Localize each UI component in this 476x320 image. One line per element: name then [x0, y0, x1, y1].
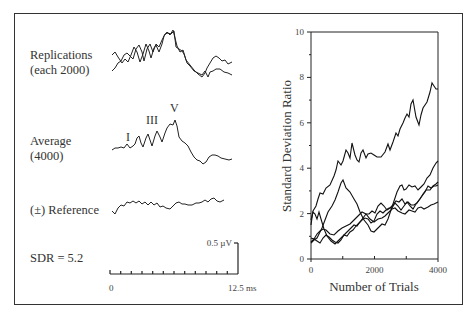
sdr-x-axis-title: Number of Trials [329, 279, 419, 294]
amplitude-scale-label: 0.5 µV [207, 238, 233, 248]
svg-text:10: 10 [295, 27, 305, 37]
svg-text:4000: 4000 [429, 265, 448, 275]
plots-canvas: I III V 0.5 µV 0 12.5 ms [0, 0, 476, 320]
svg-text:0: 0 [300, 254, 305, 264]
time-end-label: 12.5 ms [228, 283, 257, 293]
peak-label-i: I [126, 130, 130, 144]
average-trace [112, 120, 232, 164]
sdr-series-1 [311, 83, 438, 225]
svg-text:8: 8 [300, 72, 305, 82]
sdr-y-tick-labels: 0 2 4 6 8 10 [295, 27, 305, 264]
sdr-y-axis-title: Standard Deviation Ratio [279, 80, 294, 212]
sdr-series [311, 83, 438, 244]
svg-text:0: 0 [309, 265, 314, 275]
peak-label-v: V [170, 101, 179, 115]
peak-label-iii: III [146, 113, 158, 127]
sdr-series-3 [311, 182, 438, 244]
time-start-label: 0 [109, 283, 114, 293]
svg-text:4: 4 [300, 163, 305, 173]
sdr-x-tick-labels: 0 2000 4000 [309, 265, 448, 275]
svg-text:6: 6 [300, 118, 305, 128]
sdr-series-2 [311, 161, 438, 243]
reference-trace [112, 198, 224, 214]
svg-text:2: 2 [300, 209, 305, 219]
sdr-chart-axes [307, 32, 438, 262]
replication-traces [112, 30, 232, 77]
svg-text:2000: 2000 [366, 265, 385, 275]
